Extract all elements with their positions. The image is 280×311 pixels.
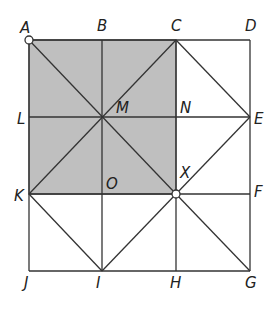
label-N: N — [180, 99, 191, 117]
label-D: D — [245, 17, 257, 35]
point-marker-A — [25, 36, 33, 44]
label-H: H — [170, 274, 181, 292]
label-O: O — [106, 175, 118, 193]
geometry-figure: ABCDLMNEKOXFJIHG — [0, 0, 280, 311]
label-F: F — [254, 183, 263, 201]
segment-IX — [102, 194, 176, 271]
label-I: I — [96, 274, 101, 292]
label-G: G — [245, 274, 257, 292]
point-marker-X — [172, 190, 180, 198]
label-A: A — [19, 19, 30, 37]
label-X: X — [179, 164, 191, 182]
segment-KI — [29, 194, 102, 271]
label-J: J — [21, 274, 28, 292]
label-K: K — [14, 187, 25, 205]
label-M: M — [116, 99, 129, 117]
segment-EX — [176, 117, 250, 194]
label-E: E — [254, 110, 264, 128]
segment-XG — [176, 194, 250, 271]
label-L: L — [17, 110, 25, 128]
label-C: C — [171, 17, 182, 35]
label-B: B — [97, 17, 107, 35]
